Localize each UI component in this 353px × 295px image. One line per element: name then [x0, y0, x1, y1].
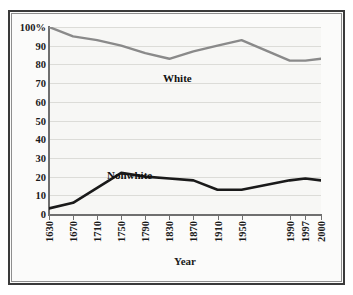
x-axis-tick — [218, 216, 219, 220]
y-axis-tick-label: 60 — [36, 96, 47, 107]
y-axis-tick-label: 20 — [36, 171, 47, 182]
x-axis-tick-label: 1997 — [300, 221, 311, 242]
y-axis-tick-label: 90 — [36, 40, 47, 51]
x-axis-tick-labels: 1630167017101750179018301870191019501990… — [49, 221, 321, 255]
x-axis-tick-label: 1790 — [140, 221, 151, 242]
x-axis-tick-label: 1870 — [188, 221, 199, 242]
x-axis-tick — [321, 216, 322, 220]
x-axis-tick-label: 1630 — [44, 221, 55, 242]
x-axis-tick — [169, 216, 170, 220]
y-axis-tick-label: 100% — [20, 22, 46, 33]
x-axis-tick — [73, 216, 74, 220]
y-axis-tick-label: 40 — [36, 134, 47, 145]
y-axis-tick-label: 50 — [36, 115, 47, 126]
x-axis-tick — [121, 216, 122, 220]
chart-figure: 100%9080706050403020100 1630167017101750… — [0, 0, 353, 295]
x-axis-tick — [290, 216, 291, 220]
y-axis-tick-label: 10 — [36, 190, 47, 201]
series-line-nonwhite — [49, 173, 321, 209]
x-axis-tick — [193, 216, 194, 220]
x-axis-tick-label: 1710 — [92, 221, 103, 242]
x-axis-tick-label: 1990 — [285, 221, 296, 242]
x-axis-tick — [97, 216, 98, 220]
series-annotation-nonwhite: Nonwhite — [107, 169, 152, 181]
series-svg — [49, 27, 321, 214]
x-axis-tick-label: 1950 — [237, 221, 248, 242]
series-line-white — [49, 27, 321, 61]
y-axis-tick-label: 0 — [41, 209, 46, 220]
y-axis-tick-label: 70 — [36, 78, 47, 89]
series-annotation-white: White — [163, 72, 192, 84]
x-axis-tick — [305, 216, 306, 220]
x-axis-tick-label: 1670 — [68, 221, 79, 242]
x-axis-tick-label: 2000 — [316, 221, 327, 242]
y-axis-tick-label: 30 — [36, 152, 47, 163]
x-axis-tick-label: 1830 — [164, 221, 175, 242]
y-axis-tick-label: 80 — [36, 59, 47, 70]
y-axis-tick-labels: 100%9080706050403020100 — [0, 27, 46, 214]
x-axis-tick — [242, 216, 243, 220]
x-axis-tick — [145, 216, 146, 220]
x-axis-title: Year — [49, 255, 321, 267]
x-axis-tick-label: 1910 — [213, 221, 224, 242]
x-axis-tick-label: 1750 — [116, 221, 127, 242]
x-axis-tick — [49, 216, 50, 220]
